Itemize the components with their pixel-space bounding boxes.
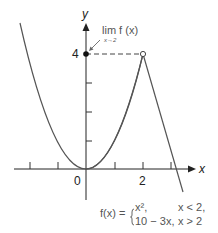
x-tick-label-2: 2: [139, 175, 146, 187]
annotation-pointer: [91, 40, 100, 49]
limit-point-dot: [83, 51, 89, 57]
piecewise-case-1-expr: x²,: [135, 202, 147, 213]
parabola-curve: [20, 23, 143, 169]
limit-annotation: lim f (x): [102, 25, 138, 36]
y-tick-label-4: 4: [72, 48, 79, 60]
piecewise-case-2-condition: x > 2: [178, 216, 202, 227]
y-ticks: [86, 83, 92, 141]
x-axis-arrow-icon: [188, 166, 196, 173]
x-axis-label: x: [199, 163, 205, 175]
open-circle-point: [140, 51, 145, 56]
piecewise-case-1-condition: x < 2,: [178, 202, 205, 213]
piecewise-case-2-expr: 10 − 3x,: [135, 216, 174, 227]
linear-segment: [143, 54, 183, 192]
y-axis-label: y: [82, 8, 88, 20]
x-ticks: [30, 162, 171, 169]
limit-subscript: x→2: [104, 37, 116, 43]
y-axis-arrow-icon: [83, 23, 90, 31]
piecewise-lhs: f(x) =: [100, 208, 125, 219]
parabola-right-branch: [86, 54, 143, 169]
x-tick-label-0: 0: [74, 175, 81, 187]
piecewise-brace: [131, 209, 135, 225]
